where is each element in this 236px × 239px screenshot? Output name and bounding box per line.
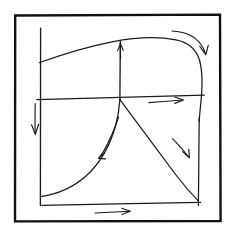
arrow-upper-right-curved-down (172, 31, 208, 55)
arrow-left-axis-down (32, 104, 39, 135)
arrow-mid-horizontal-right (149, 97, 183, 103)
center-saddle-node (119, 99, 121, 101)
bottom-horizontal-axis (42, 202, 201, 205)
arrow-lower-left-down-left (98, 117, 118, 159)
arrow-center-axis-up (118, 44, 124, 59)
diagram-canvas: Hand-drawn phase portrait sketch Hand-dr… (0, 0, 236, 239)
arrow-lower-right-down-right (173, 139, 190, 158)
arrow-bottom-horizontal-right (95, 208, 130, 214)
right-vertical-branch (198, 118, 199, 206)
hand-drawn-phase-portrait (0, 0, 236, 239)
lower-left-rising-curve (41, 99, 120, 196)
lower-right-descending-line (120, 100, 198, 201)
